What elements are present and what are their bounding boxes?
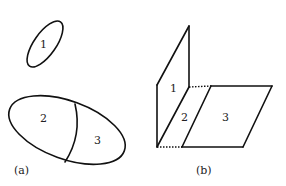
label-region-2-b: 2	[181, 111, 188, 124]
panel-b: 1 2 3 (b)	[157, 26, 272, 177]
label-region-1-a: 1	[40, 38, 47, 51]
divider-curve	[65, 104, 77, 162]
sheet3-right-slant	[243, 86, 272, 147]
panel-a: 1 2 3 (a)	[0, 16, 134, 179]
label-region-3-a: 3	[94, 134, 101, 147]
sheet1-slant-edge	[157, 26, 189, 85]
caption-b: (b)	[196, 164, 212, 177]
top-dotted-edge	[189, 86, 211, 87]
label-region-3-b: 3	[222, 111, 229, 124]
label-region-1-b: 1	[170, 82, 177, 95]
caption-a: (a)	[14, 164, 29, 177]
figure: 1 2 3 (a) 1 2 3 (b)	[0, 0, 286, 186]
label-region-2-a: 2	[40, 112, 47, 125]
